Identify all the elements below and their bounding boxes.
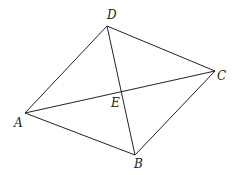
quadrilateral-diagram: A B C D E bbox=[0, 0, 233, 175]
diagram-svg: A B C D E bbox=[0, 0, 233, 175]
label-d: D bbox=[106, 8, 117, 22]
side-bc bbox=[135, 71, 215, 155]
side-cd bbox=[107, 26, 215, 71]
side-ab bbox=[25, 113, 135, 155]
labels-group: A B C D E bbox=[13, 8, 226, 171]
diagonal-bd bbox=[107, 26, 135, 155]
side-da bbox=[25, 26, 107, 113]
label-b: B bbox=[133, 157, 143, 171]
label-a: A bbox=[13, 116, 23, 130]
label-e: E bbox=[110, 96, 120, 110]
segments-group bbox=[25, 26, 215, 155]
label-c: C bbox=[217, 69, 226, 83]
diagonal-ac bbox=[25, 71, 215, 113]
